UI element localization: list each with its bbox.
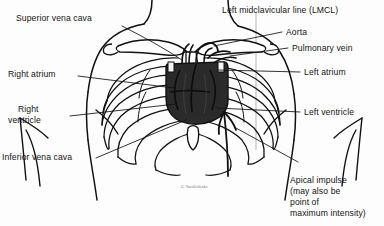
acromion-right [103,44,118,55]
label-inferior-vena-cava: Inferior vena cava [2,152,72,162]
label-pulmonary-vein: Pulmonary vein [292,43,353,53]
label-right-ventricle-line1: Right [18,104,39,114]
label-aorta: Aorta [286,27,307,37]
leader-left-ventricle [216,108,300,112]
leader-right-atrium [78,76,174,88]
xiphoid-process [187,126,199,150]
label-left-atrium: Left atrium [304,67,346,77]
label-left-midclavicular-line: Left midclavicular line (LMCL) [222,5,338,15]
artist-signature: G. Vassilichenko [181,185,208,189]
leader-left-atrium [218,70,300,72]
label-apical-impulse-line2: (may also be [290,186,340,196]
label-apical-impulse-line4: maximum intensity) [290,208,366,218]
apical-impulse-marker [219,112,236,176]
anatomy-figure: Superior vena cava Right atrium Right ve… [0,0,384,226]
label-left-ventricle: Left ventricle [304,107,354,117]
label-apical-impulse-line3: point of [290,197,319,207]
clavicle-right [116,40,186,55]
label-right-ventricle-line2: ventricle [8,115,41,125]
label-superior-vena-cava: Superior vena cava [16,13,92,23]
label-right-atrium: Right atrium [8,69,56,79]
heart-silhouette [166,62,228,124]
svc-stub [168,62,174,72]
label-apical-impulse-line1: Apical impulse [290,175,347,185]
